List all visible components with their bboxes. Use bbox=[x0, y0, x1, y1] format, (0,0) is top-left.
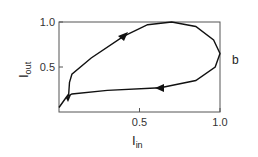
y-axis: 0.51.0 bbox=[40, 16, 63, 73]
x-tick-label: 0.5 bbox=[132, 116, 147, 128]
y-tick-label: 0.5 bbox=[40, 61, 55, 73]
chart: 0.51.0 0.51.0 Iout Iin b bbox=[0, 0, 258, 157]
plot-frame bbox=[59, 22, 220, 112]
x-axis-title: Iin bbox=[132, 133, 143, 150]
x-tick-label: 1.0 bbox=[212, 116, 227, 128]
panel-label: b bbox=[232, 53, 239, 67]
y-tick-label: 1.0 bbox=[40, 16, 55, 28]
arrow-left-icon bbox=[155, 84, 164, 92]
hysteresis-curve bbox=[59, 22, 220, 108]
x-axis: 0.51.0 bbox=[132, 108, 228, 128]
y-axis-title: Iout bbox=[16, 61, 33, 78]
